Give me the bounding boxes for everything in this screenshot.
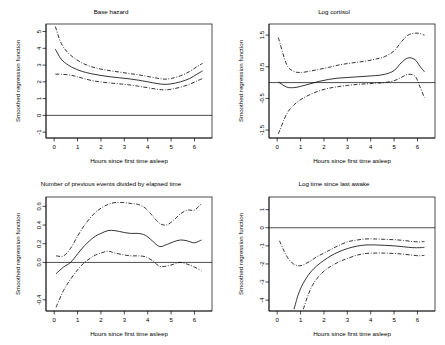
x-tick-label: 6 [193,144,197,150]
y-tick-label: -3 [258,278,264,284]
y-axis-label: Smoothed regression function [236,39,243,122]
series-estimate [56,230,201,273]
panel-3-svg: Number of previous events divided by ela… [0,173,222,345]
y-tick-label: 2 [36,80,42,84]
series-estimate [278,58,424,88]
x-tick-label: 0 [53,144,57,150]
panel-4-plot-area: 0123456-4-3-2-101Hours since first time … [236,197,434,337]
x-axis-label: Hours since first time asleep [90,330,168,337]
x-tick-label: 5 [169,144,173,150]
x-tick-label: 2 [99,144,103,150]
panel-2-title: Log cortisol [318,8,350,15]
x-tick-label: 3 [123,144,127,150]
panel-base-hazard: Base hazard 0123456-1012345Hours since f… [0,0,222,172]
x-axis-label: Hours since first time asleep [313,157,391,164]
x-axis-label: Hours since first time asleep [313,330,391,337]
x-tick-label: 0 [275,144,279,150]
panel-2-plot-area: 0123456-1.5-0.50.51.5Hours since first t… [236,24,434,164]
y-tick-label: 3 [36,63,42,67]
y-axis-label: Smoothed regression function [236,212,243,295]
x-tick-label: 4 [146,317,150,323]
x-tick-label: 2 [322,317,326,323]
panel-1-plot-area: 0123456-1012345Hours since first time as… [14,24,212,164]
x-tick-label: 4 [146,144,150,150]
panel-4-svg: Log time since last awake 0123456-4-3-2-… [223,173,445,345]
y-tick-label: 0.5 [258,62,264,71]
y-tick-label: 0.0 [36,257,42,266]
y-axis-label: Smoothed regression function [14,212,21,295]
x-tick-label: 3 [123,317,127,323]
plot-frame [269,197,435,311]
y-tick-label: 0 [36,113,42,117]
x-tick-label: 3 [345,144,349,150]
x-tick-label: 3 [345,317,349,323]
x-tick-label: 2 [99,317,103,323]
panel-log-cortisol: Log cortisol 0123456-1.5-0.50.51.5Hours … [223,0,445,172]
x-tick-label: 2 [322,144,326,150]
y-tick-label: -1 [36,129,42,135]
x-tick-label: 5 [392,144,396,150]
y-tick-label: 0.6 [36,201,42,210]
x-tick-label: 0 [275,317,279,323]
y-tick-label: 1.5 [258,30,264,39]
y-tick-label: -2 [258,260,264,266]
plot-frame [269,24,435,138]
y-tick-label: -0.5 [258,93,264,104]
series-upper-confidence-band [55,27,202,80]
x-tick-label: 4 [369,317,373,323]
x-tick-label: 0 [53,317,57,323]
x-tick-label: 6 [193,317,197,323]
x-tick-label: 6 [415,317,419,323]
series-upper-confidence-band [56,202,201,256]
series-upper-confidence-band [279,238,424,265]
series-estimate [55,49,202,84]
panel-3-title: Number of previous events divided by ela… [41,180,182,187]
y-tick-label: 1 [258,207,264,211]
y-tick-label: -1.5 [258,124,264,135]
x-tick-label: 5 [392,317,396,323]
y-axis-label: Smoothed regression function [14,39,21,122]
x-tick-label: 5 [169,317,173,323]
x-axis-label: Hours since first time asleep [90,157,168,164]
figure-panel-grid: Base hazard 0123456-1012345Hours since f… [0,0,445,345]
y-tick-label: -0.4 [36,293,42,304]
y-tick-label: -1 [258,242,264,248]
y-tick-label: -4 [258,296,264,302]
x-tick-label: 4 [369,144,373,150]
panel-previous-events-per-elapsed-time: Number of previous events divided by ela… [0,173,222,345]
y-tick-label: 5 [36,29,42,33]
series-lower-confidence-band [303,253,424,309]
series-lower-confidence-band [278,74,424,134]
series-upper-confidence-band [278,33,424,72]
x-tick-label: 1 [298,317,302,323]
y-tick-label: 0.2 [36,238,42,247]
series-lower-confidence-band [56,251,201,307]
panel-1-svg: Base hazard 0123456-1012345Hours since f… [0,0,222,172]
panel-1-title: Base hazard [94,8,129,15]
panel-4-title: Log time since last awake [298,180,369,187]
y-tick-label: 1 [36,96,42,100]
y-tick-label: 0 [258,225,264,229]
x-tick-label: 1 [76,317,80,323]
y-tick-label: 0.4 [36,220,42,229]
x-tick-label: 1 [298,144,302,150]
panel-3-plot-area: 0123456-0.40.00.20.40.6Hours since first… [14,197,212,337]
panel-log-time-since-last-awake: Log time since last awake 0123456-4-3-2-… [223,173,445,345]
panel-2-svg: Log cortisol 0123456-1.5-0.50.51.5Hours … [223,0,445,172]
x-tick-label: 1 [76,144,80,150]
x-tick-label: 6 [415,144,419,150]
y-tick-label: 4 [36,46,42,50]
plot-frame [46,24,212,138]
plot-frame [46,197,212,311]
